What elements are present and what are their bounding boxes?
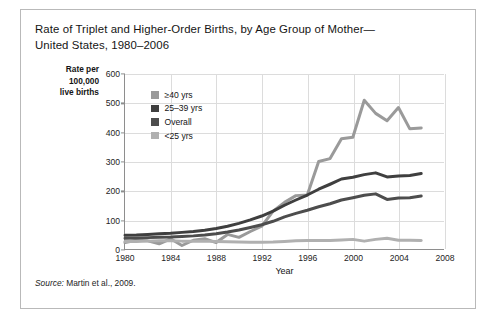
- x-tick-label: 1980: [115, 253, 134, 263]
- y-axis-title-line-3: live births: [29, 87, 99, 99]
- plot-area: 0100200300400500600 19801984198819921996…: [124, 74, 444, 250]
- legend-swatch-icon: [151, 91, 159, 99]
- figure-title: Rate of Triplet and Higher-Order Births,…: [35, 22, 455, 53]
- legend-item: <25 yrs: [151, 129, 202, 143]
- x-axis-title: Year: [275, 266, 293, 276]
- y-axis-title-line-2: 100,000: [29, 76, 99, 88]
- source-label: Source:: [35, 278, 64, 288]
- figure-frame: Rate of Triplet and Higher-Order Births,…: [20, 9, 476, 309]
- series-line: [125, 173, 421, 235]
- figure-title-line-1: Rate of Triplet and Higher-Order Births,…: [35, 23, 375, 35]
- legend-item-label: <25 yrs: [165, 131, 193, 141]
- x-tick-label: 1988: [207, 253, 226, 263]
- x-tick-label: 1984: [161, 253, 180, 263]
- legend-item-label: Overall: [165, 117, 192, 127]
- y-tick-label: 400: [106, 128, 120, 138]
- y-tick-label: 500: [106, 98, 120, 108]
- legend-item-label: ≥40 yrs: [165, 90, 193, 100]
- y-tick-label: 200: [106, 186, 120, 196]
- y-tick-mark: [121, 249, 125, 250]
- series-line: [125, 194, 421, 238]
- y-tick-label: 300: [106, 157, 120, 167]
- y-axis-title: Rate per 100,000 live births: [29, 64, 99, 99]
- y-tick-label: 600: [106, 69, 120, 79]
- source-citation: Martin et al., 2009.: [64, 278, 136, 288]
- x-tick-label: 1996: [298, 253, 317, 263]
- chart-legend: ≥40 yrs25–39 yrsOverall<25 yrs: [151, 88, 202, 142]
- legend-item: Overall: [151, 115, 202, 129]
- y-tick-label: 100: [106, 216, 120, 226]
- legend-swatch-icon: [151, 132, 159, 140]
- legend-item: ≥40 yrs: [151, 88, 202, 102]
- gridline-vertical: [445, 74, 446, 249]
- x-tick-label: 2000: [344, 253, 363, 263]
- legend-item: 25–39 yrs: [151, 102, 202, 116]
- x-tick-label: 1992: [253, 253, 272, 263]
- legend-item-label: 25–39 yrs: [165, 103, 203, 113]
- legend-swatch-icon: [151, 105, 159, 113]
- x-tick-label: 2004: [390, 253, 409, 263]
- legend-swatch-icon: [151, 118, 159, 126]
- y-axis-title-line-1: Rate per: [29, 64, 99, 76]
- x-tick-label: 2008: [435, 253, 454, 263]
- figure-title-line-2: United States, 1980–2006: [35, 38, 455, 54]
- source-note: Source: Martin et al., 2009.: [35, 278, 136, 288]
- plot-wrapper: 0100200300400500600 19801984198819921996…: [104, 66, 466, 258]
